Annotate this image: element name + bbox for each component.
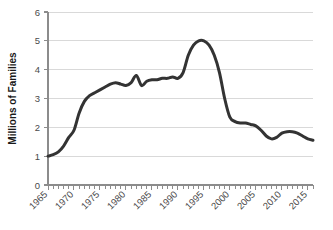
x-tick-label: 2000 <box>209 189 232 212</box>
x-tick-label: 2005 <box>235 189 258 212</box>
chart-container: 0123456 19651970197519801985199019952000… <box>0 0 333 230</box>
x-tick-label: 1970 <box>53 189 76 212</box>
y-tick-label: 6 <box>35 7 40 18</box>
x-axis-ticks <box>48 185 313 190</box>
x-tick-label: 2010 <box>261 189 284 212</box>
y-tick-label: 1 <box>35 151 40 162</box>
x-tick-label: 1980 <box>105 189 128 212</box>
x-tick-label: 1965 <box>27 189 50 212</box>
y-axis-tick-labels: 0123456 <box>35 7 40 191</box>
gridlines <box>48 12 313 156</box>
x-axis-tick-labels: 1965197019751980198519901995200020052010… <box>27 189 310 212</box>
y-tick-label: 5 <box>35 35 40 46</box>
y-tick-label: 2 <box>35 122 40 133</box>
x-tick-label: 1995 <box>183 189 206 212</box>
y-axis-title-label: Millions of Families <box>7 52 18 145</box>
x-tick-label: 2015 <box>286 189 309 212</box>
x-tick-label: 1985 <box>131 189 154 212</box>
y-tick-label: 0 <box>35 180 40 191</box>
y-axis-title: Millions of Families <box>7 52 18 145</box>
line-chart: 0123456 19651970197519801985199019952000… <box>0 0 333 230</box>
y-tick-label: 4 <box>35 64 40 75</box>
y-tick-label: 3 <box>35 93 40 104</box>
x-tick-label: 1990 <box>157 189 180 212</box>
x-tick-label: 1975 <box>79 189 102 212</box>
